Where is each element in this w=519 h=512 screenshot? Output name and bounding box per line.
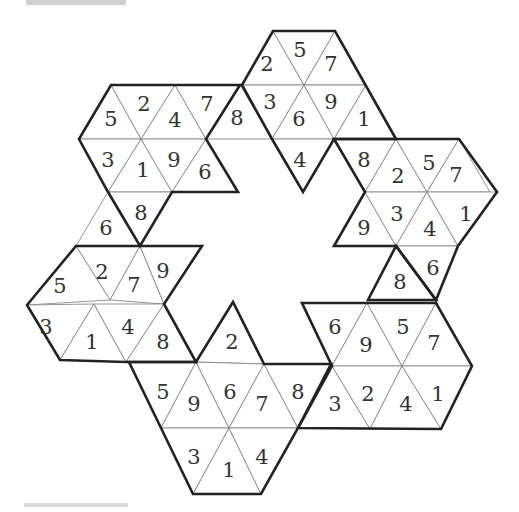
cell-number: 3 (39, 315, 52, 339)
cell-number: 6 (198, 160, 211, 184)
cell-number: 2 (95, 260, 108, 284)
cell-number: 8 (134, 201, 147, 225)
cell-number: 8 (230, 106, 243, 130)
cell-number: 1 (136, 158, 149, 182)
cell-number: 1 (85, 330, 98, 354)
cell-number: 6 (426, 256, 439, 280)
cell-number: 1 (222, 458, 235, 482)
cell-number: 9 (187, 392, 200, 416)
cell-number: 9 (167, 148, 180, 172)
cell-number: 6 (223, 380, 236, 404)
cell-number: 4 (423, 217, 436, 241)
cell-number: 2 (260, 52, 273, 76)
cell-number: 3 (328, 392, 341, 416)
cell-number: 6 (292, 107, 305, 131)
cell-number: 7 (324, 52, 337, 76)
cell-number: 5 (53, 274, 66, 298)
cell-number: 2 (225, 330, 238, 354)
cell-number: 3 (187, 445, 200, 469)
cell-number: 5 (156, 380, 169, 404)
cell-number: 3 (101, 148, 114, 172)
cell-number: 7 (427, 331, 440, 355)
cell-number: 2 (137, 92, 150, 116)
cell-number: 5 (396, 315, 409, 339)
cell-number: 8 (357, 148, 370, 172)
cell-number: 4 (121, 315, 134, 339)
cell-number: 4 (168, 108, 181, 132)
cell-number: 3 (263, 90, 276, 114)
cell-number: 2 (361, 382, 374, 406)
cell-number: 5 (293, 38, 306, 62)
cell-number: 9 (359, 333, 372, 357)
cell-number: 2 (391, 164, 404, 188)
cell-number: 4 (399, 392, 412, 416)
cell-number: 8 (156, 330, 169, 354)
cell-number: 9 (156, 259, 169, 283)
cell-number: 9 (357, 216, 370, 240)
cell-number: 5 (422, 151, 435, 175)
cell-number: 1 (431, 382, 444, 406)
cell-number: 7 (200, 92, 213, 116)
cell-number: 4 (293, 148, 306, 172)
cell-number: 1 (357, 107, 370, 131)
cell-number: 4 (255, 445, 268, 469)
cell-number: 7 (127, 273, 140, 297)
cell-number: 8 (291, 380, 304, 404)
cell-number: 5 (104, 107, 117, 131)
cell-number: 1 (459, 202, 472, 226)
cell-number: 7 (449, 163, 462, 187)
cell-number: 9 (324, 90, 337, 114)
cell-number: 6 (99, 216, 112, 240)
puzzle-board: 2573691452478319686825793416825793148259… (0, 0, 519, 512)
cell-number: 6 (328, 315, 341, 339)
cell-number: 8 (393, 270, 406, 294)
cell-number: 3 (390, 202, 403, 226)
cell-number: 7 (255, 392, 268, 416)
